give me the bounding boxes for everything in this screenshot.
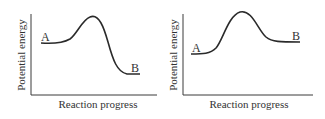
label-a: A (41, 30, 50, 44)
energy-curve (41, 16, 140, 74)
y-axis-label: Potential energy (167, 19, 179, 91)
label-b: B (131, 61, 139, 75)
label-a: A (192, 41, 201, 55)
energy-curve (191, 12, 300, 54)
y-axis-label: Potential energy (15, 19, 27, 91)
x-axis-label: Reaction progress (58, 98, 137, 110)
left-energy-diagram: A B Potential energy Reaction progress (15, 14, 157, 110)
right-energy-diagram: A B Potential energy Reaction progress (167, 12, 313, 110)
energy-diagrams: A B Potential energy Reaction progress A… (0, 0, 325, 119)
label-b: B (292, 29, 300, 43)
x-axis-label: Reaction progress (209, 98, 288, 110)
